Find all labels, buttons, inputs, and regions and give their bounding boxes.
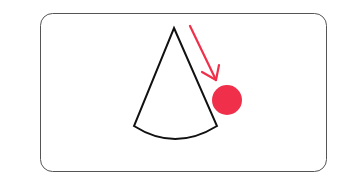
red-ball [212,85,242,115]
frame-border [41,14,327,172]
diagram-canvas [0,0,344,176]
